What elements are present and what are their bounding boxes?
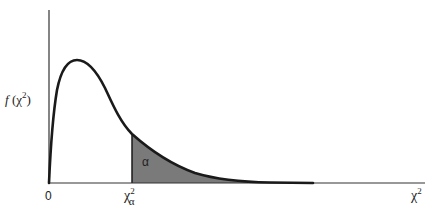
tail-area-label: α bbox=[142, 155, 149, 169]
x-axis-label: χ2 bbox=[411, 186, 422, 204]
density-curve bbox=[49, 60, 313, 183]
chi-square-diagram bbox=[0, 0, 439, 223]
tail-area-alpha bbox=[132, 134, 313, 183]
y-axis-label: f (χ2) bbox=[5, 90, 31, 108]
critical-value-label: χ2α bbox=[124, 186, 140, 204]
origin-label: 0 bbox=[45, 189, 52, 203]
